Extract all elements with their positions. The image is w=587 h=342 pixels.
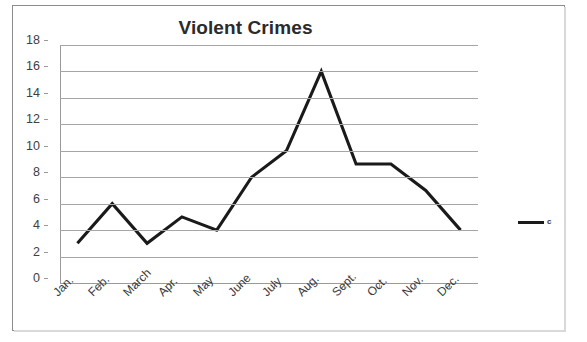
chart-title: Violent Crimes <box>13 17 478 39</box>
gridline-y-14 <box>60 98 478 99</box>
gridline-y-18 <box>60 45 478 46</box>
y-tick-mark-0 <box>44 278 48 279</box>
y-tick-label-8: 8 <box>8 166 40 179</box>
gridline-y-16 <box>60 71 478 72</box>
gridline-y-4 <box>60 230 478 231</box>
y-tick-mark-10 <box>44 146 48 147</box>
gridline-y-8 <box>60 177 478 178</box>
y-tick-mark-6 <box>44 199 48 200</box>
y-tick-mark-2 <box>44 252 48 253</box>
y-tick-label-18: 18 <box>8 34 40 47</box>
y-tick-mark-16 <box>44 66 48 67</box>
gridline-y-10 <box>60 151 478 152</box>
y-tick-mark-12 <box>44 119 48 120</box>
y-tick-label-14: 14 <box>8 87 40 100</box>
y-tick-mark-18 <box>44 40 48 41</box>
y-tick-label-10: 10 <box>8 140 40 153</box>
y-tick-label-0: 0 <box>8 272 40 285</box>
legend-swatch-c <box>518 221 544 224</box>
y-tick-label-12: 12 <box>8 113 40 126</box>
y-tick-label-4: 4 <box>8 219 40 232</box>
y-tick-label-16: 16 <box>8 60 40 73</box>
chart-screenshot: Violent Crimes 024681012141618 Jan.Feb.M… <box>0 0 587 342</box>
gridline-y-2 <box>60 257 478 258</box>
plot-area <box>60 45 478 283</box>
chart-frame: Violent Crimes 024681012141618 Jan.Feb.M… <box>12 5 565 331</box>
legend-label-c: c <box>547 218 551 226</box>
y-tick-label-6: 6 <box>8 193 40 206</box>
gridline-y-6 <box>60 204 478 205</box>
y-tick-label-2: 2 <box>8 246 40 259</box>
series-line-c <box>60 45 478 283</box>
y-tick-mark-4 <box>44 225 48 226</box>
gridline-y-12 <box>60 124 478 125</box>
legend: c <box>518 218 551 226</box>
y-tick-mark-8 <box>44 172 48 173</box>
y-tick-mark-14 <box>44 93 48 94</box>
